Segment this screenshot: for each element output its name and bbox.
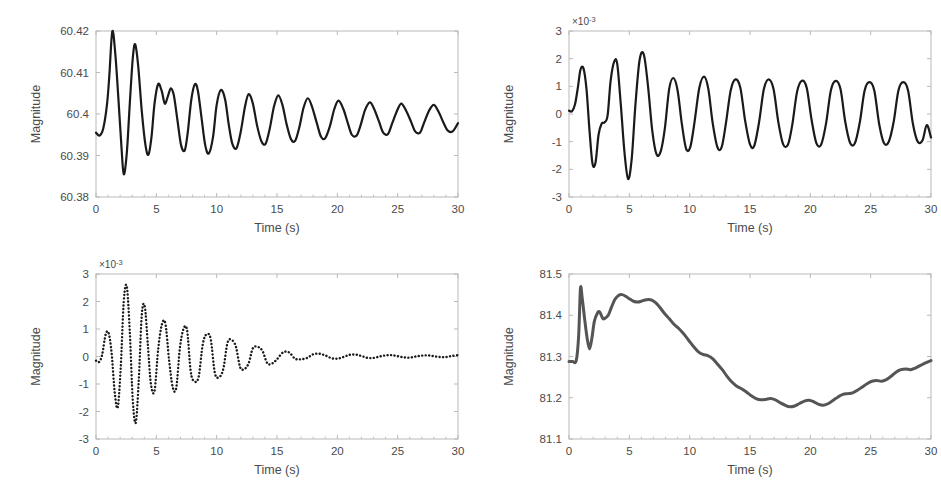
x-tick-label: 5 [626,445,632,457]
subplot-top-right: 051015202530-3-2-10123×10-3MagnitudeTime… [471,0,941,243]
x-tick-label: 30 [925,445,938,457]
x-tick-label: 25 [391,445,404,457]
x-tick-label: 10 [683,445,696,457]
x-tick-label: 5 [626,203,632,215]
x-tick-label: 25 [391,203,404,215]
x-tick-label: 20 [804,203,817,215]
y-tick-label: 81.2 [540,392,562,404]
x-tick-label: 10 [683,203,696,215]
y-tick-label: 3 [556,25,562,37]
y-tick-label: 3 [83,268,89,280]
y-tick-label: -1 [552,136,562,148]
plot-bottom-right[interactable]: 05101520253081.181.281.381.481.5Magnitud… [471,243,941,485]
x-tick-label: 15 [271,203,284,215]
axis-exponent-label: ×10-3 [99,258,123,271]
x-tick-label: 30 [452,445,465,457]
subplot-top-left: 05101520253060.3860.3960.460.4160.42Magn… [0,0,470,243]
y-tick-label: 1 [556,80,562,92]
y-tick-label: -3 [552,191,562,203]
x-tick-label: 0 [93,445,99,457]
y-tick-label: 60.4 [67,108,90,120]
y-tick-label: 81.5 [540,268,562,280]
x-axis-label: Time (s) [727,463,772,477]
y-tick-label: 0 [83,351,89,363]
y-tick-label: 2 [556,53,562,65]
x-tick-label: 15 [271,445,284,457]
y-tick-label: 0 [556,108,562,120]
y-tick-label: 60.38 [60,191,89,203]
x-tick-label: 25 [864,445,877,457]
y-tick-label: 60.39 [60,150,89,162]
x-tick-label: 15 [744,203,757,215]
y-tick-label: 81.3 [540,351,562,363]
plot-frame [96,274,458,439]
y-tick-label: -1 [79,378,89,390]
x-tick-label: 0 [566,445,572,457]
plot-bottom-left[interactable]: 051015202530-3-2-10123×10-3MagnitudeTime… [0,243,470,485]
plot-frame [96,31,458,197]
axis-exponent-label: ×10-3 [572,15,596,28]
y-axis-label: Magnitude [502,327,516,385]
x-axis-label: Time (s) [727,221,772,235]
y-tick-label: 1 [83,323,89,335]
x-tick-label: 30 [452,203,465,215]
y-axis-label: Magnitude [502,85,516,143]
subplot-bottom-left: 051015202530-3-2-10123×10-3MagnitudeTime… [0,243,470,485]
x-tick-label: 30 [925,203,938,215]
x-tick-label: 0 [566,203,572,215]
x-axis-label: Time (s) [254,463,299,477]
x-axis-label: Time (s) [254,221,299,235]
y-tick-label: 2 [83,296,89,308]
figure-canvas: 05101520253060.3860.3960.460.4160.42Magn… [0,0,941,485]
x-tick-label: 15 [744,445,757,457]
y-tick-label: -3 [79,433,89,445]
plot-frame [569,274,931,439]
y-tick-label: 60.42 [60,25,89,37]
x-tick-label: 20 [331,445,344,457]
x-tick-label: 25 [864,203,877,215]
y-axis-label: Magnitude [29,85,43,143]
x-tick-label: 5 [153,445,159,457]
plot-top-right[interactable]: 051015202530-3-2-10123×10-3MagnitudeTime… [471,0,941,243]
y-tick-label: 60.41 [60,67,89,79]
subplot-bottom-right: 05101520253081.181.281.381.481.5Magnitud… [471,243,941,485]
y-tick-label: 81.4 [540,309,563,321]
x-tick-label: 10 [210,203,223,215]
x-tick-label: 20 [804,445,817,457]
y-axis-label: Magnitude [29,327,43,385]
x-tick-label: 5 [153,203,159,215]
y-tick-label: -2 [552,163,562,175]
y-tick-label: -2 [79,406,89,418]
x-tick-label: 20 [331,203,344,215]
x-tick-label: 10 [210,445,223,457]
plot-top-left[interactable]: 05101520253060.3860.3960.460.4160.42Magn… [0,0,470,243]
x-tick-label: 0 [93,203,99,215]
y-tick-label: 81.1 [540,433,562,445]
